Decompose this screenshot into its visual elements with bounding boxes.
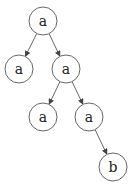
tree-node-right-right: a	[75, 103, 103, 131]
tree-node-root: a	[29, 7, 57, 35]
nodes-group: a a a a a b	[5, 7, 127, 181]
node-label: a	[39, 13, 47, 29]
edge-arrow	[49, 34, 60, 56]
edge-arrow	[72, 82, 83, 104]
node-label: a	[39, 109, 47, 125]
edge-arrow	[25, 34, 36, 57]
node-label: a	[62, 61, 70, 77]
tree-node-right: a	[52, 55, 80, 83]
tree-node-right-left: a	[29, 103, 57, 131]
edge-arrow	[49, 82, 60, 104]
tree-node-leaf-b: b	[99, 153, 127, 181]
node-label: a	[85, 109, 93, 125]
node-label: b	[109, 159, 118, 175]
edge-arrow	[95, 130, 107, 154]
edges-group	[25, 34, 106, 154]
tree-diagram: a a a a a b	[0, 0, 134, 191]
node-label: a	[15, 61, 23, 77]
tree-node-left: a	[5, 55, 33, 83]
